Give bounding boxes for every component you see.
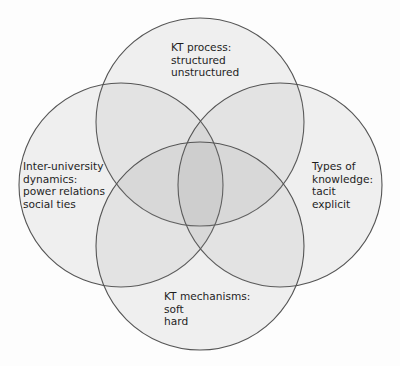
label-kt-mechanisms: KT mechanisms: soft hard (164, 290, 250, 328)
label-title-line: dynamics: (23, 173, 105, 186)
label-types-of-knowledge: Types of knowledge: tacit explicit (312, 160, 373, 210)
label-item: power relations (23, 185, 105, 198)
venn-diagram: KT process: structured unstructured Inte… (0, 0, 400, 366)
label-title: KT process: (171, 41, 239, 54)
label-title-line: Types of (312, 160, 373, 173)
label-item: tacit (312, 185, 373, 198)
label-title-line: Inter-university (23, 160, 105, 173)
label-item: soft (164, 303, 250, 316)
label-title: KT mechanisms: (164, 290, 250, 303)
label-title-line: knowledge: (312, 173, 373, 186)
label-item: hard (164, 315, 250, 328)
label-item: unstructured (171, 66, 239, 79)
label-item: structured (171, 54, 239, 67)
label-item: explicit (312, 198, 373, 211)
label-item: social ties (23, 198, 105, 211)
label-inter-university-dynamics: Inter-university dynamics: power relatio… (23, 160, 105, 210)
label-kt-process: KT process: structured unstructured (171, 41, 239, 79)
